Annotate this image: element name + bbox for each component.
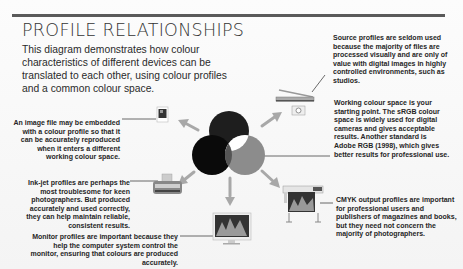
inkjet-printer-icon: [153, 174, 182, 194]
camera-icon: [292, 106, 305, 115]
large-format-printer-icon: [283, 186, 323, 222]
diagram-graphic: [0, 0, 463, 269]
scanner-icon: [276, 90, 314, 102]
monitor-icon: [213, 213, 251, 245]
colour-space-circles: [192, 111, 265, 175]
page: PROFILE RELATIONSHIPS This diagram demon…: [0, 0, 463, 269]
image-file-icon: [157, 107, 168, 122]
